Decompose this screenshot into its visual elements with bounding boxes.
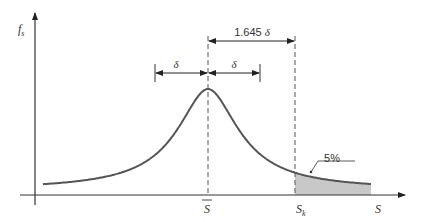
mean-label: S	[204, 202, 210, 216]
delta-left-label: δ	[173, 58, 179, 70]
distribution-diagram: fs δ δ 1.645δ 5% S Sk S	[0, 0, 422, 222]
density-curve	[43, 89, 371, 184]
tail-label-dot	[310, 171, 313, 174]
characteristic-label: Sk	[296, 202, 306, 218]
delta-right-label: δ	[231, 58, 237, 70]
y-axis-label: fs	[18, 22, 24, 38]
x-axis-label: S	[375, 202, 381, 216]
tail-area-label: 5%	[324, 152, 340, 164]
offset-label: 1.645δ	[234, 26, 271, 38]
